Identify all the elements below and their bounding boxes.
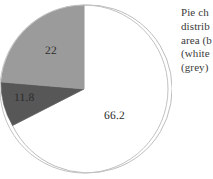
pie-label-light-grey-slice: 22 [45, 45, 57, 57]
figure-caption: Pie ch distrib area (b (white (grey) [181, 6, 213, 92]
pie-label-white-slice: 66.2 [104, 110, 125, 122]
pie-label-dark-grey-slice: 11.8 [14, 92, 35, 104]
caption-line-5: (grey) [181, 61, 213, 75]
caption-line-4: (white [181, 47, 213, 61]
caption-line-2: distrib [181, 20, 213, 34]
caption-line-1: Pie ch [181, 6, 213, 20]
caption-line-3: area (b [181, 34, 213, 48]
pie-slice-light-grey[interactable] [1, 5, 84, 89]
pie-svg [0, 0, 172, 179]
pie-chart: 66.2 11.8 22 [0, 0, 172, 179]
pie-figure: 66.2 11.8 22 Pie ch distrib area (b (whi… [0, 0, 213, 179]
